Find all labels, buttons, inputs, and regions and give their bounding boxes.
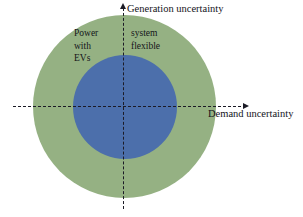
- arrow-up-icon: [120, 3, 126, 9]
- demand-uncertainty-axis: [13, 106, 246, 107]
- outer-region-label-left-line-1: Power: [74, 27, 98, 40]
- inner-region-label-line-3: flexible EVs: [0, 21, 82, 32]
- outer-region-label-right: system flexible: [131, 27, 160, 52]
- outer-region-label-left-line-3: EVs: [74, 52, 98, 65]
- inner-circle-region: [73, 55, 177, 159]
- outer-region-label-left-line-2: with: [74, 40, 98, 53]
- inner-region-label: Power system without flexible EVs: [0, 0, 82, 32]
- inner-region-label-line-2: without: [0, 11, 82, 22]
- inner-region-label-line-1: Power system: [0, 0, 82, 11]
- diagram-canvas: Generation uncertainty Demand uncertaint…: [0, 0, 303, 217]
- outer-region-label-right-line-2: flexible: [131, 40, 160, 53]
- x-axis-label: Demand uncertainty: [208, 108, 293, 120]
- generation-uncertainty-axis: [123, 8, 124, 209]
- outer-region-label-right-line-1: system: [131, 27, 160, 40]
- y-axis-label: Generation uncertainty: [127, 3, 224, 15]
- outer-region-label-left: Power with EVs: [74, 27, 98, 65]
